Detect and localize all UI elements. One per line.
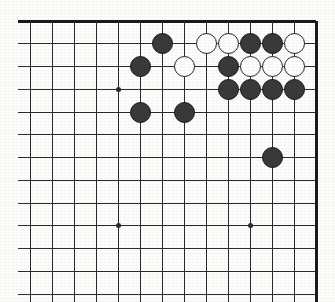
black-stone[interactable] xyxy=(262,79,283,100)
black-stone[interactable] xyxy=(218,79,239,100)
board-surface[interactable] xyxy=(0,0,335,302)
grid-line-vertical xyxy=(96,21,97,302)
white-stone[interactable] xyxy=(262,56,283,77)
black-stone[interactable] xyxy=(262,147,283,168)
grid-line-vertical xyxy=(30,21,31,302)
black-stone[interactable] xyxy=(284,79,305,100)
grid-line-vertical xyxy=(162,21,163,302)
grid-line-vertical xyxy=(52,21,53,302)
black-stone[interactable] xyxy=(240,33,261,54)
grid-line-vertical xyxy=(74,21,75,302)
white-stone[interactable] xyxy=(284,33,305,54)
grid-line-vertical xyxy=(206,21,207,302)
white-stone[interactable] xyxy=(174,56,195,77)
white-stone[interactable] xyxy=(196,33,217,54)
board-edge-right xyxy=(315,21,318,302)
hoshi-star-point xyxy=(248,223,253,228)
black-stone[interactable] xyxy=(218,56,239,77)
white-stone[interactable] xyxy=(218,33,239,54)
black-stone[interactable] xyxy=(130,56,151,77)
hoshi-star-point xyxy=(116,223,121,228)
black-stone[interactable] xyxy=(174,102,195,123)
go-board-diagram xyxy=(0,0,335,302)
hoshi-star-point xyxy=(116,87,121,92)
white-stone[interactable] xyxy=(284,56,305,77)
black-stone[interactable] xyxy=(152,33,173,54)
black-stone[interactable] xyxy=(130,102,151,123)
white-stone[interactable] xyxy=(240,56,261,77)
black-stone[interactable] xyxy=(240,79,261,100)
black-stone[interactable] xyxy=(262,33,283,54)
grid-line-vertical xyxy=(118,21,119,302)
